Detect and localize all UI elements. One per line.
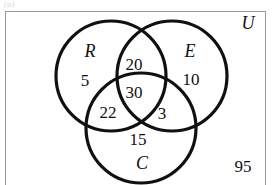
region-count-r-and-e-and-c: 30	[120, 84, 148, 101]
set-label-c: C	[132, 154, 152, 172]
region-count-outside-all: 95	[229, 158, 257, 175]
region-count-e-only: 10	[178, 71, 204, 88]
region-count-e-and-c-only: 3	[155, 105, 169, 122]
region-count-r-only: 5	[75, 72, 95, 89]
region-count-c-only: 15	[126, 131, 150, 148]
region-count-r-and-c-only: 22	[95, 104, 121, 121]
set-label-e: E	[180, 42, 200, 60]
venn-diagram-figure: (a) U R E C 5 10 20 30 22 3 15 95	[0, 0, 273, 185]
set-label-r: R	[80, 42, 100, 60]
universal-set-label: U	[238, 14, 258, 32]
region-count-r-and-e-only: 20	[121, 56, 147, 73]
circle-e	[117, 21, 227, 131]
